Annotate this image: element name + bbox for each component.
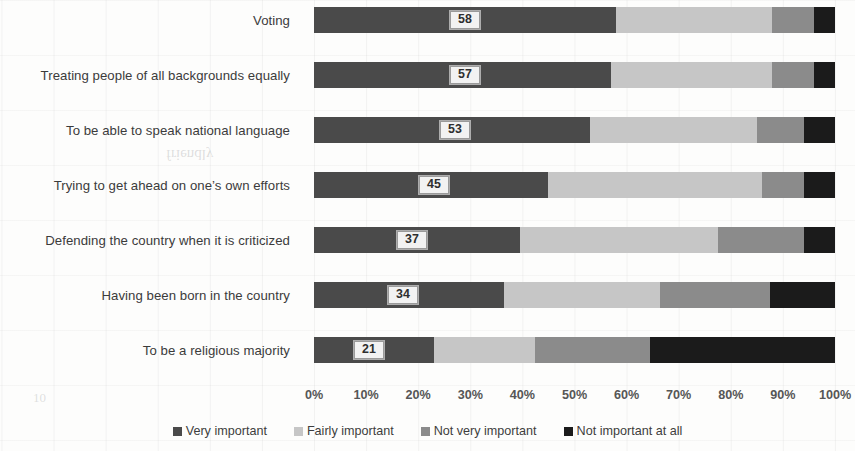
legend-item-not-very-important[interactable]: Not very important: [421, 424, 537, 438]
category-label: To be able to speak national language: [0, 123, 290, 138]
x-tick: 60%: [614, 388, 639, 402]
legend-label: Very important: [186, 424, 267, 438]
segment-not-important-at-all: [804, 172, 835, 198]
legend-item-very-important[interactable]: Very important: [173, 424, 267, 438]
bar-row: Voting 58: [0, 6, 855, 34]
stacked-bar-chart: friendly 10 Voting 58 Treating people of…: [0, 0, 855, 451]
not-very-important-swatch-icon: [421, 427, 430, 436]
data-label: 57: [450, 66, 480, 84]
x-tick: 50%: [562, 388, 587, 402]
x-tick: 30%: [458, 388, 483, 402]
bar-row: To be able to speak national language 53: [0, 116, 855, 144]
x-tick: 80%: [718, 388, 743, 402]
segment-fairly-important: [590, 117, 757, 143]
chart-legend: Very important Fairly important Not very…: [0, 424, 855, 438]
segment-not-very-important: [762, 172, 804, 198]
segment-fairly-important: [548, 172, 762, 198]
plot-area: Voting 58 Treating people of all backgro…: [0, 0, 855, 380]
segment-not-very-important: [535, 337, 650, 363]
data-label: 45: [419, 176, 449, 194]
legend-item-not-important-at-all[interactable]: Not important at all: [564, 424, 683, 438]
x-tick: 10%: [353, 388, 378, 402]
stacked-bar: [314, 227, 835, 253]
bar-row: Treating people of all backgrounds equal…: [0, 61, 855, 89]
segment-not-important-at-all: [814, 7, 835, 33]
category-label: Defending the country when it is critici…: [0, 233, 290, 248]
segment-fairly-important: [520, 227, 718, 253]
bar-row: Trying to get ahead on one’s own efforts…: [0, 171, 855, 199]
data-label: 37: [397, 231, 427, 249]
category-label: Having been born in the country: [0, 288, 290, 303]
bar-row: To be a religious majority 21: [0, 336, 855, 364]
segment-not-very-important: [757, 117, 804, 143]
segment-fairly-important: [616, 7, 772, 33]
segment-not-important-at-all: [804, 117, 835, 143]
stacked-bar: [314, 172, 835, 198]
scan-smudge-number: 10: [33, 390, 46, 406]
data-label: 53: [440, 121, 470, 139]
x-tick: 90%: [770, 388, 795, 402]
stacked-bar: [314, 337, 835, 363]
segment-fairly-important: [611, 62, 773, 88]
segment-not-very-important: [718, 227, 804, 253]
x-tick: 70%: [666, 388, 691, 402]
x-tick: 40%: [510, 388, 535, 402]
segment-not-very-important: [772, 7, 814, 33]
category-label: Voting: [0, 13, 290, 28]
segment-not-important-at-all: [650, 337, 835, 363]
legend-label: Not important at all: [577, 424, 683, 438]
segment-fairly-important: [504, 282, 660, 308]
legend-item-fairly-important[interactable]: Fairly important: [294, 424, 394, 438]
category-label: Trying to get ahead on one’s own efforts: [0, 178, 290, 193]
x-tick: 0%: [305, 388, 323, 402]
legend-label: Fairly important: [307, 424, 394, 438]
data-label: 34: [388, 286, 418, 304]
segment-not-important-at-all: [804, 227, 835, 253]
data-label: 58: [450, 11, 480, 29]
bar-row: Defending the country when it is critici…: [0, 226, 855, 254]
legend-label: Not very important: [434, 424, 537, 438]
segment-not-very-important: [772, 62, 814, 88]
stacked-bar: [314, 117, 835, 143]
bar-row: Having been born in the country 34: [0, 281, 855, 309]
segment-not-very-important: [660, 282, 769, 308]
x-tick: 20%: [406, 388, 431, 402]
x-axis: 0% 10% 20% 30% 40% 50% 60% 70% 80% 90% 1…: [314, 388, 835, 406]
segment-not-important-at-all: [814, 62, 835, 88]
category-label: Treating people of all backgrounds equal…: [0, 68, 290, 83]
x-tick: 100%: [819, 388, 851, 402]
fairly-important-swatch-icon: [294, 427, 303, 436]
not-important-at-all-swatch-icon: [564, 427, 573, 436]
stacked-bar: [314, 7, 835, 33]
data-label: 21: [354, 341, 384, 359]
stacked-bar: [314, 62, 835, 88]
segment-not-important-at-all: [770, 282, 835, 308]
very-important-swatch-icon: [173, 427, 182, 436]
segment-fairly-important: [434, 337, 536, 363]
category-label: To be a religious majority: [0, 343, 290, 358]
